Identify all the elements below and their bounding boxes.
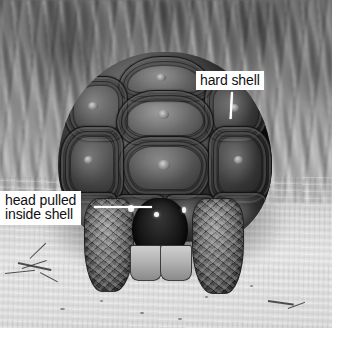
- label-hard-shell: hard shell: [196, 71, 264, 90]
- sand-speck: [205, 296, 208, 298]
- leg-scale-texture: [85, 199, 133, 291]
- scute-highlight: [84, 156, 93, 164]
- scute-highlight: [158, 110, 169, 119]
- neck-highlight: [182, 207, 186, 213]
- sand-speck: [60, 308, 65, 310]
- label-head-pulled-inside-shell: head pulled inside shell: [0, 191, 81, 225]
- scute-highlight: [156, 74, 166, 81]
- label-head-pulled-line-1: head pulled: [5, 193, 76, 207]
- sand-speck: [100, 300, 103, 302]
- plastron-plate-right: [160, 245, 192, 281]
- scute-highlight: [234, 156, 243, 164]
- front-leg-left: [84, 198, 134, 292]
- annotated-figure: hard shell head pulled inside shell: [0, 0, 341, 338]
- tortoise-photograph: [0, 0, 332, 328]
- scute-highlight: [88, 102, 98, 110]
- label-head-pulled-line-2: inside shell: [5, 207, 76, 221]
- plastron-plate-left: [130, 245, 162, 281]
- front-leg-right: [192, 198, 244, 294]
- sand-speck: [140, 312, 144, 314]
- leg-scale-texture: [193, 199, 243, 293]
- leader-line-head-pulled: [94, 206, 152, 208]
- label-hard-shell-text: hard shell: [200, 72, 260, 88]
- sand-speck: [250, 285, 253, 287]
- sand-speck: [178, 318, 182, 320]
- scute-highlight: [158, 160, 170, 170]
- neck-highlight: [154, 212, 159, 217]
